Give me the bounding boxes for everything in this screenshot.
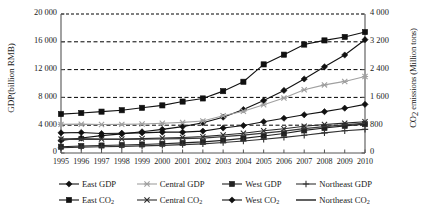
x-axis-tick-label: 2003 — [212, 158, 234, 166]
legend-item-east-gdp[interactable]: East GDP — [58, 176, 136, 192]
x-axis-tick-label: 2002 — [192, 158, 214, 166]
legend-item-northeast-gdp[interactable]: Northeast GDP — [295, 176, 388, 192]
data-point-marker — [321, 82, 327, 87]
series-central-co2 — [58, 119, 367, 142]
data-point-marker — [58, 137, 64, 143]
legend-item-central-gdp[interactable]: Central GDP — [136, 176, 221, 192]
chart-legend: East GDPCentral GDPWest GDPNortheast GDP… — [58, 176, 388, 210]
data-point-marker — [66, 197, 71, 202]
legend-item-central-co2[interactable]: Central CO2 — [136, 192, 221, 208]
y-axis-right-tick-label: 2 400 — [370, 65, 404, 73]
data-point-marker — [78, 122, 84, 127]
x-axis-tick-label: 2004 — [232, 158, 254, 166]
legend-row-co2: East CO2Central CO2West CO2Northeast CO2 — [58, 192, 388, 208]
x-axis-tick-label: 2008 — [313, 158, 335, 166]
x-axis-tick-label: 1996 — [70, 158, 92, 166]
data-point-marker — [200, 128, 206, 134]
y-axis-right-tick-label: 4 000 — [370, 9, 404, 17]
data-point-marker — [261, 119, 267, 125]
y-axis-right-tick-label: 0 — [370, 148, 404, 156]
data-point-marker — [362, 29, 367, 34]
data-point-marker — [301, 76, 307, 82]
x-axis-tick-label: 2005 — [253, 158, 275, 166]
data-point-marker — [119, 122, 125, 127]
data-point-marker — [281, 95, 287, 100]
y-axis-left-tick-label: 0 — [14, 148, 57, 156]
data-point-marker — [362, 101, 368, 107]
data-point-marker — [119, 130, 125, 136]
legend-label: East CO2 — [82, 195, 114, 205]
y-axis-right-tick-label: 800 — [370, 121, 404, 129]
legend-label: West CO2 — [245, 195, 279, 205]
legend-marker-diamond-icon — [221, 195, 243, 205]
data-point-marker — [301, 87, 307, 92]
legend-item-northeast-co2[interactable]: Northeast CO2 — [295, 192, 388, 208]
legend-item-west-gdp[interactable]: West GDP — [221, 176, 295, 192]
data-point-marker — [139, 121, 145, 126]
data-point-marker — [322, 38, 327, 43]
y-axis-right-tick-label: 3 200 — [370, 37, 404, 45]
data-point-marker — [139, 105, 144, 110]
data-point-marker — [281, 52, 286, 57]
data-point-marker — [79, 110, 84, 115]
data-point-marker — [321, 109, 327, 115]
legend-marker-line-icon — [295, 195, 317, 205]
legend-label: Northeast GDP — [319, 179, 372, 189]
data-point-marker — [58, 111, 63, 116]
legend-label: Northeast CO2 — [319, 195, 370, 205]
series-central-gdp — [58, 74, 368, 127]
data-point-marker — [160, 103, 165, 108]
data-point-marker — [342, 79, 348, 84]
series-line — [61, 77, 365, 125]
data-point-marker — [230, 181, 235, 186]
legend-label: Central GDP — [160, 179, 205, 189]
legend-label-subscript: 2 — [367, 198, 370, 205]
y-axis-right-tick-label: 1 600 — [370, 93, 404, 101]
data-point-marker — [321, 64, 327, 70]
y-axis-left-tick-label: 20 000 — [14, 9, 57, 17]
data-point-marker — [78, 129, 84, 135]
legend-item-east-co2[interactable]: East CO2 — [58, 192, 136, 208]
chart-figure: GDP(billion RMB) CO2 emissions (Million … — [0, 0, 424, 214]
legend-label-subscript: 2 — [199, 198, 202, 205]
data-point-marker — [180, 99, 185, 104]
legend-label-subscript: 2 — [276, 198, 279, 205]
data-point-marker — [281, 87, 287, 93]
data-point-marker — [99, 109, 104, 114]
x-axis-tick-label: 2009 — [334, 158, 356, 166]
data-point-marker — [301, 112, 307, 118]
data-point-marker — [180, 129, 186, 135]
x-axis-tick-label: 2010 — [354, 158, 376, 166]
series-line — [61, 32, 365, 114]
legend-label: Central CO2 — [160, 195, 202, 205]
data-point-marker — [303, 181, 309, 187]
legend-marker-plus-icon — [295, 179, 317, 189]
data-point-marker — [302, 42, 307, 47]
x-axis-tick-label: 1999 — [131, 158, 153, 166]
data-point-marker — [220, 125, 226, 131]
y-axis-left-tick-label: 16 000 — [14, 37, 57, 45]
data-point-marker — [261, 62, 266, 67]
y-axis-left-tick-label: 4 000 — [14, 121, 57, 129]
x-axis-tick-label: 2000 — [151, 158, 173, 166]
data-point-marker — [98, 122, 104, 127]
data-point-marker — [200, 96, 205, 101]
data-point-marker — [241, 79, 246, 84]
x-axis-tick-label: 2006 — [273, 158, 295, 166]
legend-item-west-co2[interactable]: West CO2 — [221, 192, 295, 208]
data-point-marker — [58, 130, 64, 136]
data-point-marker — [229, 197, 235, 203]
data-point-marker — [66, 181, 72, 187]
data-point-marker — [342, 105, 348, 111]
legend-marker-x-icon — [136, 195, 158, 205]
data-point-marker — [119, 108, 124, 113]
data-point-marker — [240, 122, 246, 128]
legend-label: East GDP — [82, 179, 116, 189]
legend-row-gdp: East GDPCentral GDPWest GDPNortheast GDP — [58, 176, 388, 192]
x-axis-tick-label: 1997 — [91, 158, 113, 166]
data-point-marker — [362, 126, 368, 132]
legend-marker-diamond-icon — [58, 179, 80, 189]
data-point-marker — [281, 115, 287, 121]
y-axis-left-tick-label: 12 000 — [14, 65, 57, 73]
x-axis-tick-label: 2007 — [293, 158, 315, 166]
